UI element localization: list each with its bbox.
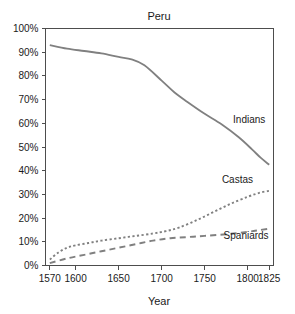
- chart-container: Peru 0%10%20%30%40%50%60%70%80%90%100% 1…: [0, 0, 295, 314]
- y-tick-label: 60%: [18, 118, 38, 129]
- y-tick-label: 80%: [18, 70, 38, 81]
- x-axis-title: Year: [148, 295, 171, 307]
- series-label-indians: Indians: [233, 114, 265, 125]
- series-line-castas: [50, 191, 269, 260]
- y-tick-label: 100%: [13, 23, 39, 34]
- x-tick-label: 1650: [108, 273, 131, 284]
- y-tick-label: 50%: [18, 142, 38, 153]
- chart-title: Peru: [147, 10, 170, 22]
- y-tick-label: 30%: [18, 189, 38, 200]
- y-tick-label: 20%: [18, 213, 38, 224]
- peru-population-composition-chart: Peru 0%10%20%30%40%50%60%70%80%90%100% 1…: [0, 0, 295, 314]
- series-label-spaniards: Spaniards: [224, 230, 269, 241]
- series-line-indians: [50, 45, 269, 165]
- x-tick-label: 1570: [39, 273, 62, 284]
- y-tick-label: 0%: [24, 260, 39, 271]
- series-label-castas: Castas: [222, 174, 253, 185]
- y-axis-ticks: 0%10%20%30%40%50%60%70%80%90%100%: [13, 23, 46, 271]
- x-tick-label: 1700: [151, 273, 174, 284]
- x-tick-label: 1825: [258, 273, 281, 284]
- y-tick-label: 10%: [18, 236, 38, 247]
- y-tick-label: 90%: [18, 47, 38, 58]
- x-tick-label: 1750: [194, 273, 217, 284]
- series-labels: IndiansCastasSpaniards: [222, 114, 269, 241]
- y-tick-label: 70%: [18, 94, 38, 105]
- x-axis-ticks: 1570160016501700175018001825: [39, 266, 281, 284]
- x-tick-label: 1800: [237, 273, 260, 284]
- y-tick-label: 40%: [18, 165, 38, 176]
- x-tick-label: 1600: [64, 273, 87, 284]
